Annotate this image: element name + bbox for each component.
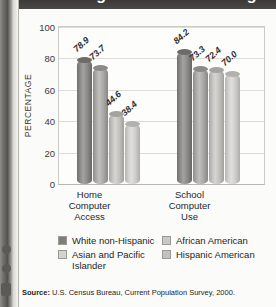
bar-hispanic-american-school bbox=[225, 74, 240, 184]
scan-artifact bbox=[2, 264, 11, 273]
legend-label: White non-Hispanic bbox=[72, 235, 154, 246]
scan-artifact bbox=[1, 283, 11, 296]
chart-page: Percentage of Children Using Computers b… bbox=[0, 0, 276, 307]
bar-cap bbox=[193, 66, 208, 72]
y-axis-title: PERCENTAGE bbox=[22, 26, 34, 185]
x-category-line: School bbox=[142, 189, 237, 200]
y-tick-label: 80 bbox=[44, 53, 55, 64]
scan-artifact bbox=[2, 245, 11, 254]
legend-swatch-icon bbox=[58, 236, 67, 245]
source-note: Source: U.S. Census Bureau, Current Popu… bbox=[22, 288, 235, 297]
y-tick-label: 20 bbox=[44, 147, 55, 158]
bar-hispanic-american-home bbox=[125, 124, 140, 184]
legend-swatch-icon bbox=[162, 250, 171, 259]
legend-label: Asian and Pacific Islander bbox=[72, 249, 162, 271]
y-tick-label: 40 bbox=[44, 116, 55, 127]
x-category-label-home-computer-access: Home Computer Access bbox=[42, 189, 137, 222]
source-label: Source: bbox=[22, 288, 50, 297]
bar-african-american-school bbox=[193, 69, 208, 184]
source-text: U.S. Census Bureau, Current Population S… bbox=[52, 288, 235, 297]
bar-white-non-hispanic-home bbox=[77, 60, 92, 184]
bar-white-non-hispanic-school bbox=[177, 52, 192, 184]
bar-cap bbox=[225, 71, 240, 77]
bar-value-label: 78.9 bbox=[71, 35, 91, 54]
bar-african-american-home bbox=[93, 68, 108, 184]
x-category-line: Computer bbox=[142, 200, 237, 211]
x-category-line: Access bbox=[42, 211, 137, 222]
chart-title-bar: Percentage of Children Using Computers b… bbox=[19, 0, 276, 9]
legend-item-hispanic-american: Hispanic American bbox=[162, 249, 276, 271]
x-category-line: Computer bbox=[42, 200, 137, 211]
bar-value-label: 84.2 bbox=[171, 27, 191, 46]
legend-label: Hispanic American bbox=[176, 249, 255, 260]
legend-item-white-non-hispanic: White non-Hispanic bbox=[58, 235, 162, 246]
bar-group-home-computer-access: 78.9 73.7 44.6 38.4 bbox=[77, 27, 147, 184]
bar-value-label: 38.4 bbox=[119, 99, 139, 118]
bar-cap bbox=[209, 67, 224, 73]
chart-body: PERCENTAGE 100 80 60 40 20 0 bbox=[19, 9, 276, 307]
legend-label: African American bbox=[176, 235, 248, 246]
plot-area: 100 80 60 40 20 0 78.9 bbox=[58, 26, 265, 185]
scan-page-edge bbox=[0, 0, 13, 307]
bar-group-school-computer-use: 84.2 73.3 72.4 70.0 bbox=[177, 27, 247, 184]
legend-swatch-icon bbox=[162, 236, 171, 245]
legend-item-asian-and-pacific-islander: Asian and Pacific Islander bbox=[58, 249, 162, 271]
y-tick-label: 0 bbox=[50, 179, 55, 190]
y-tick-label: 60 bbox=[44, 84, 55, 95]
bar-cap bbox=[93, 65, 108, 71]
legend-item-african-american: African American bbox=[162, 235, 276, 246]
legend-swatch-icon bbox=[58, 250, 67, 259]
bar-cap bbox=[125, 121, 140, 127]
chart-title: Percentage of Children Using Computers b… bbox=[27, 0, 272, 4]
x-category-line: Use bbox=[142, 211, 237, 222]
y-tick-label: 100 bbox=[39, 22, 55, 33]
bar-asian-pacific-islander-school bbox=[209, 70, 224, 184]
bar-asian-pacific-islander-home bbox=[109, 114, 124, 184]
chart-legend: White non-Hispanic African American Asia… bbox=[58, 235, 276, 271]
x-category-line: Home bbox=[42, 189, 137, 200]
x-category-label-school-computer-use: School Computer Use bbox=[142, 189, 237, 222]
